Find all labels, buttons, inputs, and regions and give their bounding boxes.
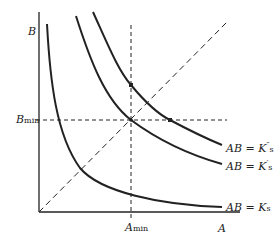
a-min-label: Amin [125, 221, 148, 234]
label-k-s-prime: AB = K′s [226, 158, 272, 173]
b-min-label: Bmin [16, 113, 39, 126]
curve-k-s-prime [76, 16, 222, 164]
label-k-s-double-prime: AB = K″s [226, 140, 274, 155]
marker-point-right [168, 118, 172, 122]
diagonal-guide [39, 22, 227, 212]
y-axis-label: B [28, 25, 36, 38]
marker-point-center [129, 118, 133, 122]
curve-k-s-double-prime [93, 12, 222, 145]
label-k-s: AB = Ks [226, 201, 271, 214]
x-axis-label: A [218, 222, 226, 235]
marker-point-upper [129, 83, 133, 87]
